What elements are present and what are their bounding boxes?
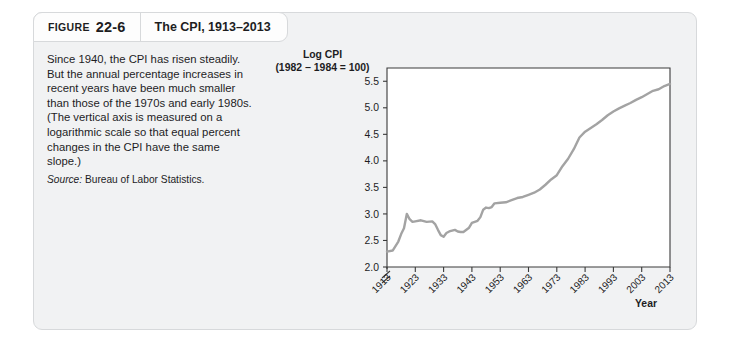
y-tick-label: 3.0 [365, 209, 380, 220]
y-tick-label: 4.0 [365, 155, 380, 166]
caption-source-lead: Source: [47, 174, 82, 185]
figure-header-tab: FIGURE 22-6 The CPI, 1913–2013 [33, 12, 288, 42]
figure-label: FIGURE [48, 21, 90, 33]
x-tick-label: 1953 [483, 271, 507, 295]
y-tick-label: 2.5 [365, 235, 380, 246]
plot-background [387, 68, 670, 267]
x-tick-label: 2003 [624, 271, 648, 295]
y-tick-label: 5.0 [365, 102, 380, 113]
y-tick-label: 2.0 [365, 262, 380, 273]
figure-title: The CPI, 1913–2013 [141, 20, 287, 34]
cpi-line-chart: 2.02.53.03.54.04.55.05.51913192319331943… [255, 46, 685, 316]
y-tick-label: 3.5 [365, 182, 380, 193]
figure-number: 22-6 [96, 19, 140, 35]
chart-region: Log CPI (1982 − 1984 = 100) 2.02.53.03.5… [255, 46, 685, 316]
x-tick-label: 1943 [454, 271, 478, 295]
caption-text: Since 1940, the CPI has risen steadily. … [47, 52, 253, 169]
caption-block: Since 1940, the CPI has risen steadily. … [47, 52, 253, 187]
x-tick-label: 1933 [426, 271, 450, 295]
caption-source: Source: Bureau of Labor Statistics. [47, 173, 253, 187]
x-tick-label: 1913 [369, 271, 393, 295]
x-tick-label: 1923 [398, 271, 422, 295]
x-axis-title: Year [635, 298, 657, 309]
x-tick-label: 1983 [568, 271, 592, 295]
x-tick-label: 1993 [596, 271, 620, 295]
y-tick-label: 5.5 [365, 76, 380, 87]
caption-source-text: Bureau of Labor Statistics. [82, 174, 204, 185]
y-tick-label: 4.5 [365, 129, 380, 140]
x-tick-label: 2013 [652, 271, 676, 295]
x-tick-label: 1963 [511, 271, 535, 295]
x-tick-label: 1973 [539, 271, 563, 295]
